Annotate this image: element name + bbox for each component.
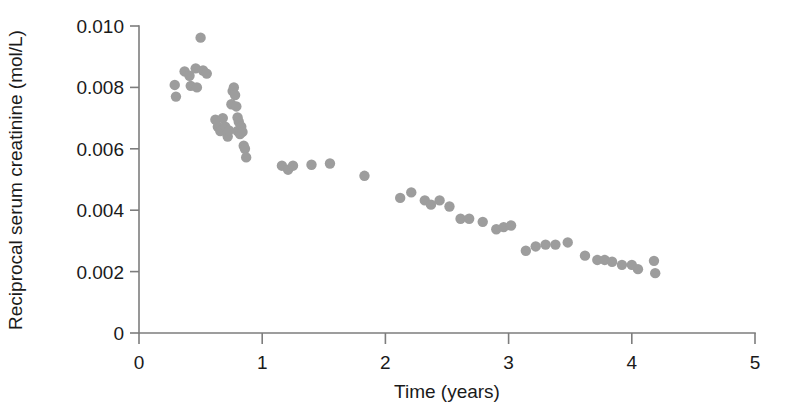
data-point xyxy=(359,171,369,181)
data-point xyxy=(434,195,444,205)
data-point xyxy=(230,90,240,100)
data-point xyxy=(580,250,590,260)
data-point xyxy=(195,32,205,42)
y-tick-label: 0.008 xyxy=(76,77,124,98)
y-tick-label: 0.004 xyxy=(76,200,124,221)
data-point xyxy=(171,91,181,101)
data-point xyxy=(444,201,454,211)
data-point xyxy=(231,101,241,111)
data-point xyxy=(540,239,550,249)
y-axis-group: 00.0020.0040.0060.0080.010 xyxy=(76,16,139,344)
data-point xyxy=(650,268,660,278)
y-tick-label: 0.002 xyxy=(76,262,124,283)
data-point xyxy=(306,160,316,170)
y-tick-label: 0 xyxy=(113,323,124,344)
data-point xyxy=(617,260,627,270)
data-point xyxy=(395,193,405,203)
x-tick-label: 1 xyxy=(257,352,268,373)
data-point xyxy=(192,82,202,92)
data-point xyxy=(633,264,643,274)
data-point xyxy=(325,158,335,168)
data-point xyxy=(170,80,180,90)
x-axis-title: Time (years) xyxy=(394,381,500,402)
scatter-chart-figure: 00.0020.0040.0060.0080.010 012345 Time (… xyxy=(0,0,785,413)
y-tick-label: 0.010 xyxy=(76,16,124,37)
data-point xyxy=(649,256,659,266)
y-axis-title: Reciprocal serum creatinine (mol/L) xyxy=(5,30,26,330)
data-point xyxy=(521,246,531,256)
x-tick-label: 5 xyxy=(750,352,761,373)
data-point xyxy=(478,217,488,227)
data-point xyxy=(607,257,617,267)
data-point xyxy=(550,239,560,249)
x-tick-label: 3 xyxy=(503,352,514,373)
data-point xyxy=(506,220,516,230)
x-tick-label: 0 xyxy=(134,352,145,373)
data-point xyxy=(202,68,212,78)
data-point xyxy=(531,241,541,251)
data-point xyxy=(241,152,251,162)
data-point xyxy=(406,187,416,197)
data-point xyxy=(464,214,474,224)
data-points-layer xyxy=(170,32,661,278)
data-point xyxy=(563,237,573,247)
data-point xyxy=(237,127,247,137)
x-tick-group: 012345 xyxy=(134,333,761,373)
y-tick-label: 0.006 xyxy=(76,139,124,160)
x-tick-label: 2 xyxy=(380,352,391,373)
plot-canvas: 00.0020.0040.0060.0080.010 012345 Time (… xyxy=(0,0,785,413)
y-tick-group: 00.0020.0040.0060.0080.010 xyxy=(76,16,139,344)
x-axis-group: 012345 xyxy=(134,333,761,373)
x-tick-label: 4 xyxy=(627,352,638,373)
data-point xyxy=(288,160,298,170)
